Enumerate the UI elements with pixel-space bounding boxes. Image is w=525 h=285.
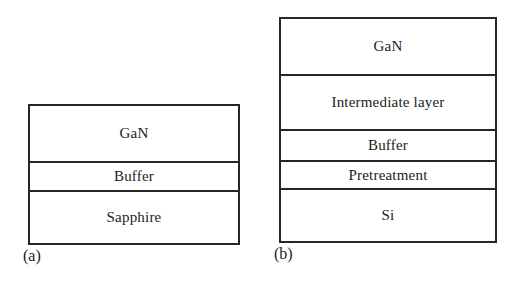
layer-stack-b: GaN Intermediate layer Buffer Pretreatme… bbox=[279, 17, 497, 243]
layer-a-gan: GaN bbox=[30, 106, 238, 163]
layer-b-buffer: Buffer bbox=[281, 131, 495, 162]
layer-b-buffer-label: Buffer bbox=[368, 138, 408, 153]
layer-a-gan-label: GaN bbox=[120, 126, 149, 141]
layer-b-gan: GaN bbox=[281, 19, 495, 76]
panel-b-caption: (b) bbox=[274, 246, 293, 262]
layer-b-intermediate-layer: Intermediate layer bbox=[281, 76, 495, 131]
layer-b-intermediate-layer-label: Intermediate layer bbox=[331, 95, 444, 110]
layer-a-buffer: Buffer bbox=[30, 163, 238, 191]
layer-b-si-label: Si bbox=[382, 208, 395, 223]
layer-stack-a: GaN Buffer Sapphire bbox=[28, 104, 240, 245]
panel-a-caption: (a) bbox=[23, 248, 41, 264]
layer-b-gan-label: GaN bbox=[374, 39, 403, 54]
layer-a-sapphire-label: Sapphire bbox=[107, 210, 162, 225]
layer-b-pretreatment-label: Pretreatment bbox=[348, 168, 427, 183]
layer-b-si: Si bbox=[281, 190, 495, 241]
layer-a-buffer-label: Buffer bbox=[114, 169, 154, 184]
layer-b-pretreatment: Pretreatment bbox=[281, 162, 495, 190]
layer-a-sapphire: Sapphire bbox=[30, 192, 238, 243]
figure-root: GaN Buffer Sapphire (a) GaN Intermediate… bbox=[0, 0, 525, 285]
